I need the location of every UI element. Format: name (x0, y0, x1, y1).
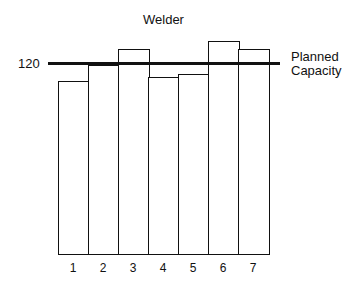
x-tick-6: 6 (208, 261, 238, 275)
legend-line-1: Planned (291, 50, 342, 64)
legend-line-2: Capacity (291, 64, 342, 78)
x-tick-2: 2 (88, 261, 118, 275)
x-tick-5: 5 (178, 261, 208, 275)
x-tick-7: 7 (238, 261, 268, 275)
x-tick-1: 1 (58, 261, 88, 275)
chart-title: Welder (143, 12, 184, 27)
bar-1 (58, 81, 90, 255)
bar-4 (148, 77, 180, 255)
bar-5 (178, 74, 210, 255)
planned-capacity-legend: Planned Capacity (291, 50, 342, 78)
bar-3 (118, 49, 150, 255)
x-tick-3: 3 (118, 261, 148, 275)
y-tick-label: 120 (18, 56, 40, 71)
bar-2 (88, 65, 120, 255)
bar-6 (208, 41, 240, 255)
planned-capacity-line (48, 62, 280, 65)
x-tick-4: 4 (148, 261, 178, 275)
bar-7 (238, 49, 270, 255)
